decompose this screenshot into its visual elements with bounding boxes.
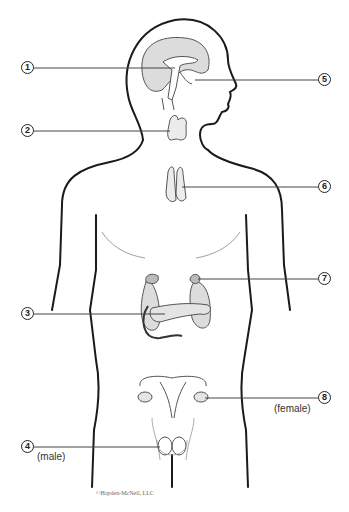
- callout-7: 7: [318, 272, 331, 285]
- male-note: (male): [37, 451, 65, 462]
- left-shoulder-outline: [52, 140, 143, 310]
- body-outline-figure: [0, 0, 349, 512]
- thymus: [166, 167, 186, 202]
- kidneys-adrenals: [141, 274, 210, 330]
- callout-4: 4: [21, 440, 34, 453]
- testes: [157, 437, 187, 455]
- callout-5: 5: [318, 73, 331, 86]
- thyroid: [168, 116, 187, 141]
- copyright-text: ©Hayden-McNeil, LLC: [96, 490, 154, 496]
- callout-3: 3: [21, 307, 34, 320]
- female-note: (female): [274, 403, 311, 414]
- left-torso-side: [90, 215, 99, 487]
- right-rib-line: [196, 232, 240, 258]
- callout-8: 8: [318, 391, 331, 404]
- callout-2: 2: [21, 124, 34, 137]
- callout-1: 1: [21, 61, 34, 74]
- brain: [142, 37, 209, 110]
- right-torso-side: [241, 215, 252, 487]
- callout-6: 6: [318, 180, 331, 193]
- left-rib-line: [102, 232, 145, 258]
